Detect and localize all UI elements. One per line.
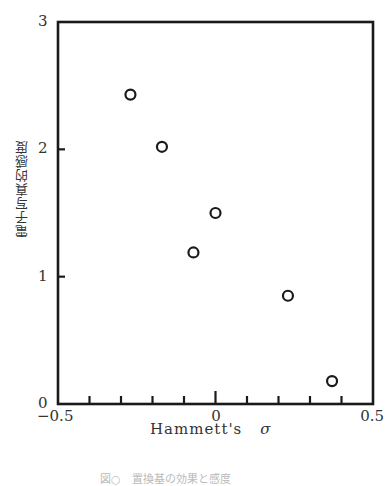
data-point-marker (125, 90, 135, 100)
y-tick-label: 2 (38, 139, 48, 157)
x-tick-label: 0.5 (360, 407, 384, 425)
y-tick-label: 3 (38, 12, 48, 30)
x-axis-label-text: Hammett's (150, 420, 242, 438)
axis-ticks (58, 149, 342, 404)
x-axis-label: Hammett'sσ (150, 420, 271, 438)
data-point-marker (188, 247, 198, 257)
x-tick-label: −0.5 (37, 407, 73, 425)
sigma-symbol: σ (260, 420, 271, 438)
data-point-marker (283, 291, 293, 301)
figure-caption: 図○ 置換基の効果と感度 (100, 470, 231, 486)
y-tick-label: 1 (38, 267, 48, 285)
data-point-marker (211, 208, 221, 218)
y-axis-label: 電子写真的感度 (12, 140, 32, 238)
data-point-marker (157, 142, 167, 152)
data-points (125, 90, 337, 387)
data-point-marker (327, 376, 337, 386)
